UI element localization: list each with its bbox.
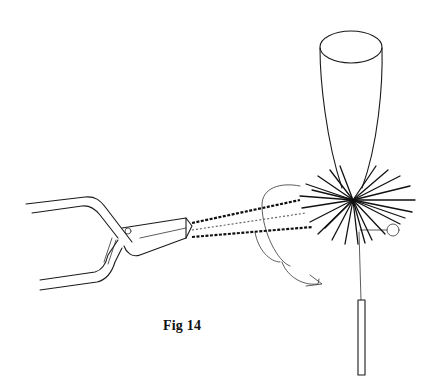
- bobbin-needle: [358, 232, 365, 375]
- figure-caption: Fig 14: [163, 318, 201, 334]
- hackle-pliers: [26, 197, 192, 290]
- wing-post: [320, 31, 382, 188]
- fly-tying-illustration: [0, 0, 440, 392]
- hackle-collar: [300, 166, 415, 244]
- thread-strands: [192, 200, 312, 237]
